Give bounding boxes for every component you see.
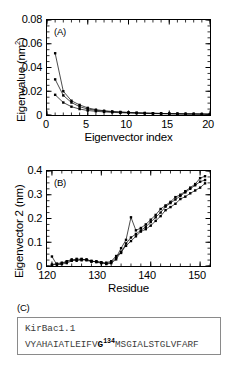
panel-b: Eigenvector 2 (nm) 0.4 0.3 0.2 0.1 0 (B)… — [0, 150, 238, 298]
figure-root: Eigenvalue (nm2) 0.08 0.06 0.04 0.02 0 (… — [0, 0, 238, 373]
panel-a-xtick-0: 0 — [36, 118, 56, 130]
panel-c: (C) KirBac1.1 VYAHAIATLEIFVG134MSGIALSTG… — [0, 298, 238, 373]
panel-b-tag: (B) — [54, 177, 66, 188]
panel-b-series-canvas — [47, 171, 210, 266]
panel-b-ytick-0p2: 0.2 — [0, 212, 42, 224]
panel-b-xtick-150: 150 — [184, 269, 210, 281]
panel-b-xtick-120: 120 — [34, 269, 60, 281]
panel-b-xtick-130: 130 — [84, 269, 110, 281]
panel-a-xtick-10: 10 — [115, 118, 137, 130]
panel-a-xtick-15: 15 — [156, 118, 178, 130]
panel-c-tag: (C) — [17, 302, 30, 313]
panel-a-tag: (A) — [54, 26, 66, 37]
panel-a: Eigenvalue (nm2) 0.08 0.06 0.04 0.02 0 (… — [0, 0, 238, 148]
protein-sequence: VYAHAIATLEIFVG134MSGIALSTGLVFARF — [25, 335, 214, 351]
panel-a-ytick-0p04: 0.04 — [0, 61, 42, 73]
sequence-residue-number: 134 — [103, 338, 115, 345]
sequence-box: KirBac1.1 VYAHAIATLEIFVG134MSGIALSTGLVFA… — [17, 317, 221, 355]
panel-b-ytick-0p4: 0.4 — [0, 164, 42, 176]
panel-b-ytick-0p3: 0.3 — [0, 188, 42, 200]
panel-b-plot-area: (B) — [46, 170, 211, 267]
panel-b-ytick-0p1: 0.1 — [0, 236, 42, 248]
panel-b-x-axis-label: Residue — [46, 282, 211, 294]
protein-name: KirBac1.1 — [25, 322, 214, 335]
panel-b-xtick-140: 140 — [134, 269, 160, 281]
panel-a-x-axis-label: Eigenvector index — [46, 131, 211, 143]
panel-a-xtick-5: 5 — [76, 118, 96, 130]
panel-a-xtick-20: 20 — [197, 118, 219, 130]
sequence-suffix: MSGIALSTGLVFARF — [115, 339, 199, 350]
panel-a-ytick-0p06: 0.06 — [0, 37, 42, 49]
panel-a-ytick-0p08: 0.08 — [0, 13, 42, 25]
panel-a-ytick-0p02: 0.02 — [0, 85, 42, 97]
panel-a-plot-area: (A) — [46, 19, 211, 116]
sequence-prefix: VYAHAIATLEIFV — [25, 339, 98, 350]
panel-a-series-canvas — [47, 20, 210, 115]
